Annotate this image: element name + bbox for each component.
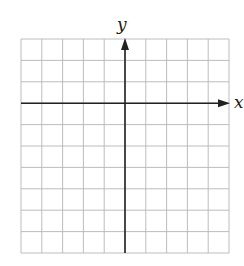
y-axis-arrow-icon: [121, 38, 129, 50]
x-axis-arrow-icon: [218, 99, 230, 107]
axes: [21, 38, 230, 253]
coordinate-grid: [0, 0, 244, 266]
y-axis-label: y: [117, 16, 127, 33]
x-axis-label: x: [234, 94, 244, 111]
